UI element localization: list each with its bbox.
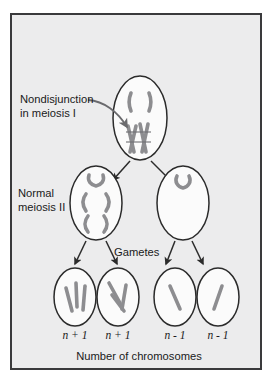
ploidy-label-gamete-3: n - 1 xyxy=(164,329,185,341)
nondisjunction-label-line1: Nondisjunction xyxy=(20,93,93,105)
arrow-right-to-gamete4 xyxy=(192,241,203,264)
ploidy-label-gamete-4: n - 1 xyxy=(207,329,228,341)
gamete-1 xyxy=(54,268,96,326)
arrow-left-to-gamete1 xyxy=(75,241,86,264)
meiosis-diagram: Nondisjunction in meiosis I Normal meios… xyxy=(0,0,277,379)
normal-meiosis-label-line1: Normal xyxy=(18,187,54,199)
meiosis-ii-cell-left xyxy=(70,166,122,240)
figure-root: Nondisjunction in meiosis I Normal meios… xyxy=(0,0,277,379)
ploidy-label-gamete-2: n + 1 xyxy=(105,329,130,341)
gamete-2 xyxy=(97,268,139,326)
nondisjunction-label-line2: in meiosis I xyxy=(20,107,76,119)
gamete-3 xyxy=(154,268,196,326)
normal-meiosis-label-line2: meiosis II xyxy=(18,201,65,213)
arrow-right-to-gamete3 xyxy=(166,241,175,264)
gamete-4 xyxy=(197,268,239,326)
meiosis-ii-cell-right xyxy=(157,166,209,240)
meiosis-ii-right-membrane xyxy=(157,166,209,240)
arrow-meiosis1-to-left xyxy=(113,161,130,180)
meiosis-ii-left-membrane xyxy=(70,166,122,240)
gametes-label: Gametes xyxy=(114,246,160,258)
figure-caption: Number of chromosomes xyxy=(76,350,202,362)
ploidy-label-gamete-1: n + 1 xyxy=(62,329,87,341)
